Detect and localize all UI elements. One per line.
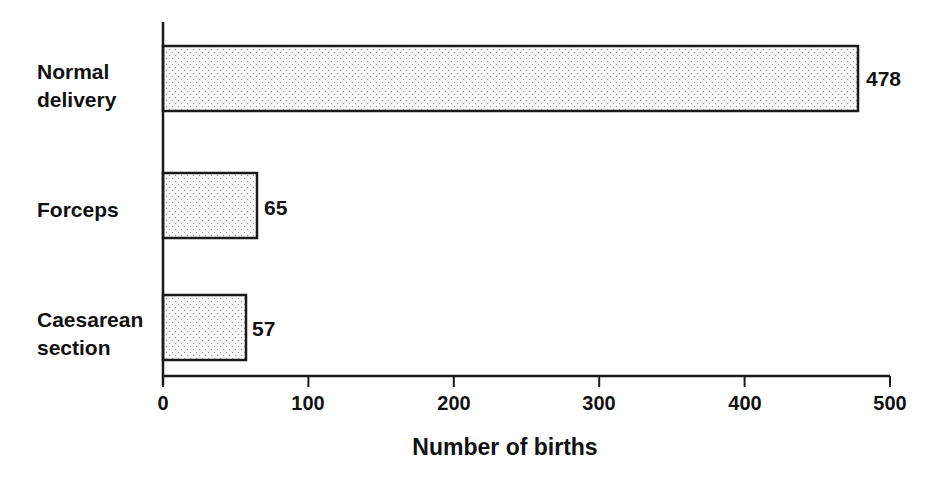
chart-plot-area [0,0,942,483]
bar-chart: Normal delivery Forceps Caesarean sectio… [0,0,942,483]
value-label-normal-delivery: 478 [866,67,901,91]
x-axis-ticks [163,376,890,387]
x-tick-label-500: 500 [873,392,906,415]
x-axis-title: Number of births [412,434,597,461]
bar-forceps [163,173,257,238]
value-label-forceps: 65 [264,196,287,220]
category-label-forceps: Forceps [37,196,119,224]
x-tick-label-100: 100 [291,392,324,415]
x-tick-label-300: 300 [582,392,615,415]
x-tick-label-200: 200 [437,392,470,415]
bar-normal-delivery [163,46,858,111]
x-tick-label-400: 400 [728,392,761,415]
value-label-caesarean-section: 57 [252,317,275,341]
x-tick-label-0: 0 [157,392,168,415]
bar-caesarean-section [163,295,246,360]
category-label-normal-delivery: Normal delivery [37,58,116,114]
category-label-caesarean-section: Caesarean section [37,306,143,362]
